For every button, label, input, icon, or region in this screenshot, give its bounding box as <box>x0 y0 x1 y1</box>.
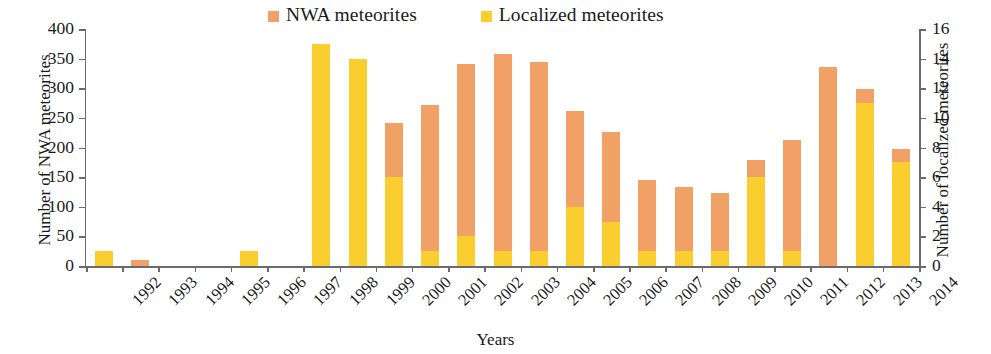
bar-segment-nwa[interactable] <box>494 54 512 251</box>
bar-segment-nwa[interactable] <box>819 67 837 266</box>
bar-segment-nwa[interactable] <box>675 187 693 252</box>
bar-segment-nwa[interactable] <box>638 180 656 252</box>
bar-segment-nwa[interactable] <box>711 193 729 252</box>
x-axis-tick-label: 2008 <box>709 274 744 309</box>
y-axis-left-tick-label: 50 <box>57 228 75 246</box>
bar-segment-localized[interactable] <box>892 162 910 266</box>
bar-segment-localized[interactable] <box>421 251 439 266</box>
x-axis-tick-label: 1993 <box>166 274 201 309</box>
y-axis-left-tick <box>79 236 85 238</box>
bar-segment-localized[interactable] <box>349 59 367 266</box>
x-axis-tick-label: 1997 <box>311 274 346 309</box>
y-axis-right-tick <box>920 266 926 268</box>
bar-group[interactable] <box>566 29 584 266</box>
y-axis-left-tick <box>79 177 85 179</box>
bar-segment-localized[interactable] <box>312 44 330 266</box>
bar-segment-localized[interactable] <box>457 236 475 266</box>
bar-segment-localized[interactable] <box>240 251 258 266</box>
bar-group[interactable] <box>385 29 403 266</box>
bar-segment-nwa[interactable] <box>747 160 765 177</box>
bar-segment-nwa[interactable] <box>385 123 403 178</box>
bar-segment-nwa[interactable] <box>892 149 910 163</box>
bar-group[interactable] <box>240 29 258 266</box>
meteorite-stacked-bar-chart: NWA meteorites Localized meteorites Numb… <box>0 0 991 354</box>
bar-segment-nwa[interactable] <box>856 89 874 103</box>
bar-group[interactable] <box>675 29 693 266</box>
x-axis-tick-label: 1998 <box>347 274 382 309</box>
bar-segment-nwa[interactable] <box>457 64 475 236</box>
bar-segment-localized[interactable] <box>783 251 801 266</box>
bar-group[interactable] <box>747 29 765 266</box>
y-axis-left-tick-label: 400 <box>48 20 74 38</box>
legend-swatch-nwa-icon <box>268 11 279 22</box>
x-axis-tick-labels: 1992199319941995199619971998199920002001… <box>86 266 919 330</box>
bar-segment-localized[interactable] <box>95 251 113 266</box>
bar-group[interactable] <box>204 29 222 266</box>
y-axis-right-tick <box>920 29 926 31</box>
y-axis-left-tick-label: 150 <box>48 168 74 186</box>
x-axis-tick-label: 2012 <box>854 274 889 309</box>
bar-group[interactable] <box>349 29 367 266</box>
x-axis-tick-label: 2000 <box>420 274 455 309</box>
bar-group[interactable] <box>638 29 656 266</box>
y-axis-right-tick <box>920 148 926 150</box>
y-axis-right-tick-label: 14 <box>932 50 950 68</box>
bar-segment-localized[interactable] <box>711 251 729 266</box>
y-axis-left-tick-label: 300 <box>48 80 74 98</box>
bar-segment-nwa[interactable] <box>783 140 801 251</box>
x-axis-tick-label: 1992 <box>130 274 165 309</box>
bar-group[interactable] <box>168 29 186 266</box>
y-axis-left-tick <box>79 59 85 61</box>
y-axis-left-tick <box>79 118 85 120</box>
x-axis-tick-label: 1999 <box>383 274 418 309</box>
bar-segment-nwa[interactable] <box>566 111 584 207</box>
bar-group[interactable] <box>856 29 874 266</box>
y-axis-left-tick-label: 250 <box>48 109 74 127</box>
bar-group[interactable] <box>783 29 801 266</box>
bar-group[interactable] <box>95 29 113 266</box>
bar-group[interactable] <box>892 29 910 266</box>
x-axis-tick-label: 2011 <box>818 274 853 309</box>
x-axis-tick-label: 2003 <box>528 274 563 309</box>
x-axis-tick-label: 1994 <box>202 274 237 309</box>
bar-group[interactable] <box>131 29 149 266</box>
bar-segment-localized[interactable] <box>494 251 512 266</box>
bar-group[interactable] <box>421 29 439 266</box>
bar-segment-localized[interactable] <box>566 207 584 266</box>
bar-segment-nwa[interactable] <box>421 105 439 251</box>
bar-group[interactable] <box>276 29 294 266</box>
y-axis-right-tick <box>920 207 926 209</box>
bar-group[interactable] <box>457 29 475 266</box>
x-axis-tick-label: 2014 <box>927 274 962 309</box>
bar-segment-localized[interactable] <box>530 251 548 266</box>
bar-segment-localized[interactable] <box>602 222 620 266</box>
bar-group[interactable] <box>711 29 729 266</box>
x-axis-tick-label: 2013 <box>890 274 925 309</box>
bar-segment-localized[interactable] <box>747 177 765 266</box>
y-axis-right-tick-label: 4 <box>932 198 941 216</box>
bar-segment-nwa[interactable] <box>530 62 548 251</box>
bar-group[interactable] <box>494 29 512 266</box>
y-axis-left-tick-label: 100 <box>48 198 74 216</box>
bar-segment-nwa[interactable] <box>602 132 620 222</box>
bar-segment-localized[interactable] <box>385 177 403 266</box>
y-axis-left-tick <box>79 207 85 209</box>
legend-label-nwa: NWA meteorites <box>286 5 417 25</box>
x-axis-tick-label: 2005 <box>601 274 636 309</box>
bar-group[interactable] <box>312 29 330 266</box>
bar-group[interactable] <box>602 29 620 266</box>
bar-group[interactable] <box>819 29 837 266</box>
bar-group[interactable] <box>530 29 548 266</box>
bar-segment-localized[interactable] <box>675 251 693 266</box>
legend-label-localized: Localized meteorites <box>499 5 664 25</box>
bar-series-container <box>86 29 919 266</box>
y-axis-left-tick-label: 200 <box>48 139 74 157</box>
y-axis-left-tick <box>79 88 85 90</box>
x-axis-tick-label: 2009 <box>745 274 780 309</box>
y-axis-right-tick-label: 16 <box>932 20 950 38</box>
x-axis-tick-label: 2007 <box>673 274 708 309</box>
y-axis-left-tick-label: 350 <box>48 50 74 68</box>
bar-segment-localized[interactable] <box>856 103 874 266</box>
x-axis-tick-label: 1995 <box>238 274 273 309</box>
bar-segment-localized[interactable] <box>638 251 656 266</box>
